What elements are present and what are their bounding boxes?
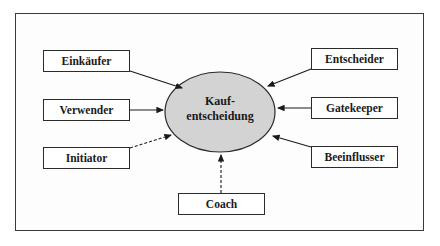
role-beeinflusser: Beeinflusser	[311, 146, 398, 168]
arrow-einkaeufer	[130, 71, 182, 88]
role-entscheider: Entscheider	[311, 48, 398, 70]
arrow-entscheider	[268, 69, 311, 86]
role-verwender: Verwender	[43, 99, 130, 121]
center-label-line2: entscheidung	[165, 109, 275, 124]
center-label: Kauf- entscheidung	[165, 94, 275, 124]
role-gatekeeper: Gatekeeper	[311, 97, 398, 119]
role-coach: Coach	[178, 193, 265, 215]
center-label-line1: Kauf-	[165, 94, 275, 109]
buying-center-diagram: Kauf- entscheidung Einkäufer Verwender I…	[0, 0, 440, 246]
role-initiator: Initiator	[43, 147, 130, 169]
arrow-beeinflusser	[273, 136, 311, 147]
role-einkaeufer: Einkäufer	[43, 50, 130, 72]
arrow-initiator	[130, 135, 171, 148]
